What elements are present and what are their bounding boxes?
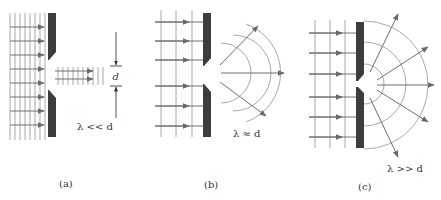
caption-c: (c)	[358, 181, 372, 192]
barrier-c	[356, 22, 364, 148]
panel-c: λ >> d (c)	[309, 14, 434, 192]
incident-rays-c	[309, 33, 356, 137]
incident-wavefronts-b	[161, 10, 192, 137]
incident-wavefronts-a	[10, 13, 45, 140]
panel-b: λ ≈ d (b)	[155, 10, 284, 190]
barrier-b	[203, 13, 211, 137]
caption-b: (b)	[204, 179, 218, 190]
diffracted-rays-c	[370, 14, 434, 157]
incident-wavefronts-c	[315, 20, 345, 148]
condition-label-b: λ ≈ d	[233, 128, 261, 139]
condition-label-c: λ >> d	[387, 163, 423, 174]
caption-a: (a)	[59, 178, 73, 189]
condition-label-a: λ << d	[77, 121, 113, 132]
barrier-a	[48, 13, 56, 137]
diffraction-diagram: d λ << d (a)	[0, 0, 441, 200]
panel-a: d λ << d (a)	[10, 13, 122, 189]
dimension-label-d: d	[113, 71, 119, 82]
incident-rays-b	[155, 22, 203, 126]
dimension-d: d	[110, 32, 122, 118]
transmitted-beam-a	[55, 67, 103, 85]
